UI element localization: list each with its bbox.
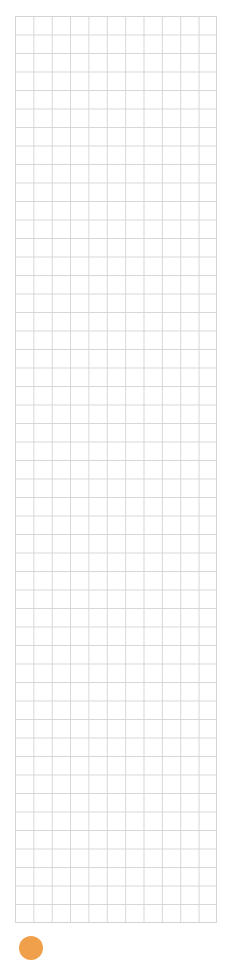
grid-canvas[interactable] <box>15 16 217 923</box>
orange-circle-icon[interactable] <box>19 936 43 960</box>
